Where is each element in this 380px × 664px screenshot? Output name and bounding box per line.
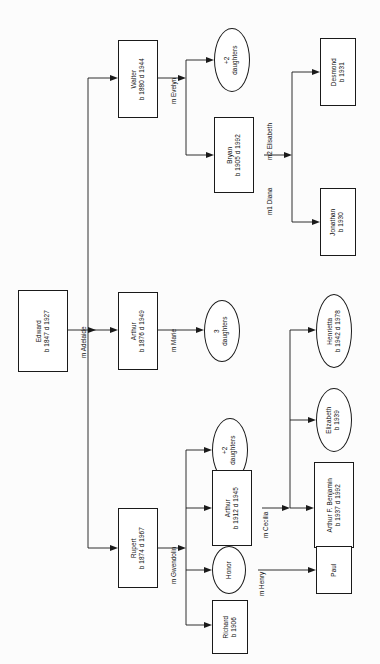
marriage-label-edward: m Adelaide [80, 326, 87, 358]
node-desmond-text: Desmond b 1931 [330, 58, 346, 86]
node-richard[interactable]: Richard b 1906 [212, 600, 248, 654]
node-arthur-f-benjamin-text: Arthur F. Benjamin b 1937 d 1992 [326, 478, 342, 532]
node-walter-daughters[interactable]: +2 daughters [214, 28, 250, 92]
node-jonathan-text: Jonathan b 1930 [330, 208, 346, 235]
marriage-label-arthur-junior: m Cecilia [262, 512, 269, 538]
node-walter-text: Walter b 1880 d 1944 [130, 58, 146, 100]
marriage-label-rupert: m Gwendolin [170, 547, 177, 584]
node-richard-text: Richard b 1906 [222, 616, 238, 639]
node-edward-text: Edward b 1847 d 1927 [35, 310, 51, 352]
node-elizabeth-text: Elizabeth b 1939 [326, 406, 342, 433]
node-bryan-text: Bryan b 1905 d 1992 [226, 134, 242, 176]
marriage-label-walter: m Evelyn [170, 78, 177, 104]
node-paul-text: Paul [330, 563, 338, 576]
family-tree-canvas: Edward b 1847 d 1927 m Adelaide Walter b… [0, 0, 380, 664]
node-walter-daughters-text: +2 daughters [224, 45, 240, 74]
node-arthur-junior[interactable]: Arthur b 1912 d 1945 [212, 470, 252, 546]
node-honor[interactable]: Honor [212, 546, 246, 594]
marriage-label-bryan-2: m2 Elisabeth [266, 123, 273, 160]
node-arthur-senior-text: Arthur b 1876 d 1949 [130, 310, 146, 352]
node-arthur-daughters-text: 3 daughters [214, 316, 230, 345]
node-arthur-daughters[interactable]: 3 daughters [204, 300, 240, 362]
node-arthur-f-benjamin[interactable]: Arthur F. Benjamin b 1937 d 1992 [314, 462, 354, 548]
node-henrietta-text: Henrietta b 1942 d 1978 [326, 310, 342, 352]
node-edward[interactable]: Edward b 1847 d 1927 [18, 290, 68, 372]
node-arthur-senior[interactable]: Arthur b 1876 d 1949 [118, 292, 158, 370]
node-honor-text: Honor [225, 561, 233, 579]
node-jonathan[interactable]: Jonathan b 1930 [320, 188, 356, 256]
node-arthur-junior-text: Arthur b 1912 d 1945 [224, 487, 240, 529]
node-henrietta[interactable]: Henrietta b 1942 d 1978 [316, 294, 352, 368]
marriage-label-bryan-1: m1 Diana [266, 188, 273, 215]
node-elizabeth[interactable]: Elizabeth b 1939 [316, 388, 352, 452]
node-rupert-text: Rupert b 1874 d 1967 [130, 527, 146, 569]
node-bryan[interactable]: Bryan b 1905 d 1992 [214, 117, 254, 193]
node-rupert-daughters-text: +2 daughters [222, 435, 238, 464]
node-rupert[interactable]: Rupert b 1874 d 1967 [118, 508, 158, 588]
marriage-label-honor: m Henry [258, 572, 265, 596]
node-desmond[interactable]: Desmond b 1931 [320, 38, 356, 106]
node-paul[interactable]: Paul [316, 546, 352, 594]
node-walter[interactable]: Walter b 1880 d 1944 [118, 40, 158, 118]
marriage-label-arthur-senior: m Marie [170, 329, 177, 352]
